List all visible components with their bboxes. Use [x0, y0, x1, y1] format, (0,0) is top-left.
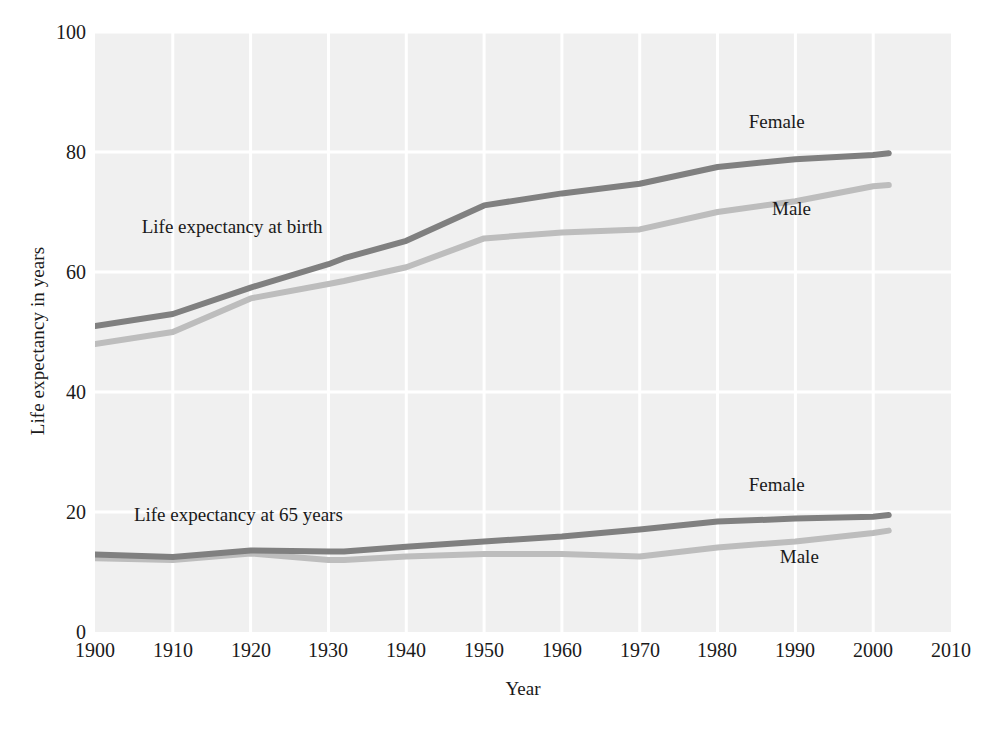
y-axis-ticks: 100 80 60 40 20 0 — [20, 0, 86, 736]
x-tick-1910: 1910 — [128, 640, 218, 660]
x-tick-1960: 1960 — [517, 640, 607, 660]
gridlines-horizontal — [95, 32, 951, 512]
x-tick-1940: 1940 — [361, 640, 451, 660]
x-tick-1950: 1950 — [439, 640, 529, 660]
chart-svg — [95, 32, 951, 632]
y-tick-100: 100 — [26, 22, 86, 42]
line-at-birth-male — [95, 185, 889, 344]
x-tick-2000: 2000 — [828, 640, 918, 660]
x-tick-1930: 1930 — [283, 640, 373, 660]
plot-area: Life expectancy at birth Life expectancy… — [95, 32, 951, 632]
figure: Life expectancy in years 100 80 60 40 20… — [0, 0, 981, 736]
y-tick-40: 40 — [26, 382, 86, 402]
annotation-65-female: Female — [749, 475, 805, 494]
annotation-birth-male: Male — [772, 199, 811, 218]
y-tick-20: 20 — [26, 502, 86, 522]
y-tick-80: 80 — [26, 142, 86, 162]
annotation-birth-female: Female — [749, 112, 805, 131]
annotation-65-male: Male — [780, 547, 819, 566]
x-tick-1900: 1900 — [50, 640, 140, 660]
x-tick-2010: 2010 — [906, 640, 981, 660]
y-tick-60: 60 — [26, 262, 86, 282]
annotation-at-birth: Life expectancy at birth — [142, 217, 323, 236]
x-tick-1990: 1990 — [750, 640, 840, 660]
x-axis-label: Year — [95, 678, 951, 700]
x-tick-1980: 1980 — [672, 640, 762, 660]
annotation-at-65: Life expectancy at 65 years — [134, 505, 343, 524]
